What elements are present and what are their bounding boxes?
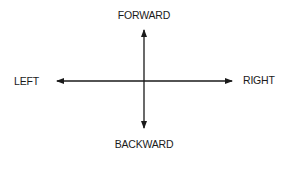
label-left: LEFT [14, 76, 39, 87]
label-backward: BACKWARD [115, 139, 174, 150]
label-right: RIGHT [243, 75, 275, 86]
label-forward: FORWARD [118, 10, 170, 21]
